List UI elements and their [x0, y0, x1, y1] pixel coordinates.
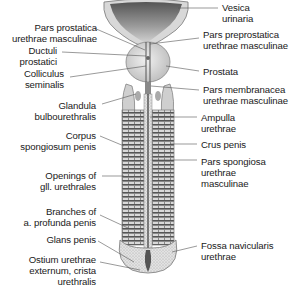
label-glandula-bulbourethralis: Glandula bulbourethralis: [35, 100, 96, 122]
label-vesica-urinaria: Vesica urinaria: [222, 2, 253, 24]
membranous-urethra: [145, 82, 151, 94]
label-pars-spongiosa: Pars spongiosa urethrae masculinae: [201, 156, 266, 189]
label-ductuli-prostatici: Ductuli prostatici: [20, 45, 57, 67]
label-ampulla-urethrae: Ampulla urethrae: [201, 112, 236, 134]
label-pars-preprostatica: Pars preprostatica urethrae masculinae: [203, 29, 288, 51]
label-prostata: Prostata: [203, 66, 238, 77]
urethra-diagram: Pars prostatica urethrae masculinae Duct…: [0, 0, 291, 286]
label-crus-penis: Crus penis: [201, 139, 246, 150]
label-glans-penis: Glans penis: [46, 234, 96, 245]
label-pars-prostatica: Pars prostatica urethrae masculinae: [12, 22, 97, 44]
label-corpus-spongiosum: Corpus spongiosum penis: [20, 130, 96, 152]
label-pars-membranacea: Pars membranacea urethrae masculinae: [203, 84, 288, 106]
label-ostium-urethrae: Ostium urethrae externum, crista urethra…: [29, 254, 96, 286]
label-openings-gll-urethrales: Openings of gll. urethrales: [40, 170, 96, 192]
penile-shaft: [122, 94, 174, 262]
prostate: [126, 42, 170, 82]
label-colliculus-seminalis: Colliculus seminalis: [24, 68, 64, 90]
bladder: [104, 0, 189, 46]
label-fossa-navicularis: Fossa navicularis urethrae: [201, 240, 273, 262]
label-branches-a-profunda: Branches of a. profunda penis: [24, 206, 96, 228]
